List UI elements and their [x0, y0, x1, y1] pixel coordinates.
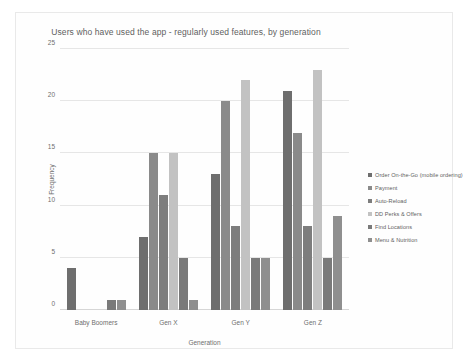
legend-item[interactable]: DD Perks & Offers [368, 207, 470, 220]
bar [323, 258, 332, 310]
bar-group-bars [60, 49, 132, 310]
bar [293, 133, 302, 310]
y-axis-tick-label: 20 [48, 91, 55, 98]
bar [169, 153, 178, 310]
chart-title: Users who have used the app - regularly … [16, 27, 356, 37]
bar-group: Gen Y [205, 49, 277, 310]
legend-item[interactable]: Auto-Reload [368, 194, 470, 207]
y-axis-tick-label: 5 [51, 247, 55, 254]
bar [159, 195, 168, 310]
plot-area: 0510152025 Baby BoomersGen XGen YGen Z [60, 49, 349, 310]
legend-item-label: Auto-Reload [375, 198, 407, 204]
legend-item-label: Menu & Nutrition [375, 237, 417, 243]
legend-item-label: Order On-the-Go (mobile ordering) [375, 172, 463, 178]
bar-group: Gen Z [277, 49, 349, 310]
legend-item[interactable]: Find Locations [368, 220, 470, 233]
y-axis-tick-label: 15 [48, 143, 55, 150]
y-axis-tick-label: 25 [48, 39, 55, 46]
legend-item-label: Payment [375, 185, 397, 191]
bar-groups: Baby BoomersGen XGen YGen Z [60, 49, 349, 310]
legend-swatch-icon [368, 199, 372, 203]
bar-group: Gen X [132, 49, 204, 310]
bar [67, 268, 76, 310]
bar-group-bars [277, 49, 349, 310]
bar [179, 258, 188, 310]
bar [149, 153, 158, 310]
bar [117, 300, 126, 310]
bar [333, 216, 342, 310]
bar [313, 70, 322, 310]
bar [221, 101, 230, 310]
bar-group-bars [205, 49, 277, 310]
legend-item-label: Find Locations [375, 224, 412, 230]
y-axis-tick-label: 10 [48, 195, 55, 202]
legend-item-label: DD Perks & Offers [375, 211, 422, 217]
legend-swatch-icon [368, 186, 372, 190]
chart-frame: Users who have used the app - regularly … [15, 12, 453, 349]
bar-group: Baby Boomers [60, 49, 132, 310]
y-axis-label-text: Frequency [48, 164, 55, 195]
legend-item[interactable]: Order On-the-Go (mobile ordering) [368, 168, 470, 181]
x-axis-tick-label: Gen Z [277, 319, 349, 326]
bar [283, 91, 292, 310]
legend-swatch-icon [368, 238, 372, 242]
bar [231, 226, 240, 310]
legend-swatch-icon [368, 173, 372, 177]
x-axis-label: Generation [60, 339, 349, 346]
bar [261, 258, 270, 310]
chart-legend: Order On-the-Go (mobile ordering)Payment… [368, 168, 470, 246]
legend-item[interactable]: Payment [368, 181, 470, 194]
bar-group-bars [132, 49, 204, 310]
x-axis-tick-label: Gen X [132, 319, 204, 326]
legend-swatch-icon [368, 225, 372, 229]
bar [251, 258, 260, 310]
legend-item[interactable]: Menu & Nutrition [368, 233, 470, 246]
y-axis-tick-label: 0 [51, 300, 55, 307]
bar [189, 300, 198, 310]
bar [139, 237, 148, 310]
bar [211, 174, 220, 310]
x-axis-tick-label: Baby Boomers [60, 319, 132, 326]
bar [241, 80, 250, 310]
x-axis-tick-label: Gen Y [205, 319, 277, 326]
bar [303, 226, 312, 310]
legend-swatch-icon [368, 212, 372, 216]
bar [107, 300, 116, 310]
